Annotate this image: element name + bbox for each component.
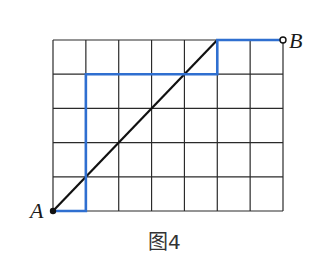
label-a: A xyxy=(30,198,43,224)
grid-lines xyxy=(53,40,283,211)
label-b: B xyxy=(289,28,302,54)
diagonal-line xyxy=(53,40,217,211)
point-a xyxy=(50,208,56,214)
figure-caption: 图4 xyxy=(148,226,181,255)
point-b xyxy=(280,37,286,43)
blue-path xyxy=(53,40,283,211)
